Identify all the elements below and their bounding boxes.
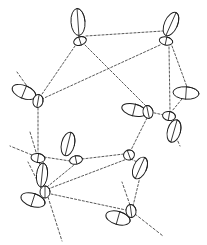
ortep-figure <box>0 0 207 245</box>
atom-A19 <box>40 186 50 198</box>
ortep-canvas <box>0 0 207 245</box>
